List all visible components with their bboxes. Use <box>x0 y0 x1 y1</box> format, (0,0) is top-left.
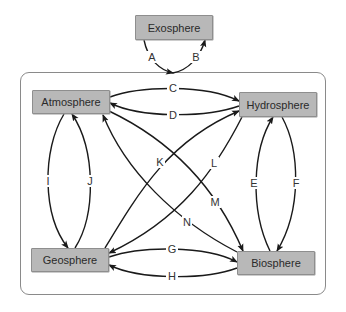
edge-label-b: B <box>192 51 199 63</box>
edge-label-e: E <box>250 177 257 189</box>
edge-label-j: J <box>87 175 93 187</box>
edge-label-l: L <box>211 157 217 169</box>
node-label: Atmosphere <box>41 96 100 108</box>
edge-label-g: G <box>168 243 177 255</box>
node-geosphere: Geosphere <box>31 248 109 272</box>
edge-label-h: H <box>168 270 176 282</box>
edge-k <box>105 111 239 248</box>
edge-label-a: A <box>148 51 156 63</box>
edge-l <box>109 117 242 253</box>
node-label: Exosphere <box>148 22 201 34</box>
edge-label-d: D <box>169 109 177 121</box>
edge-m <box>109 111 243 251</box>
edge-label-m: M <box>210 196 219 208</box>
edge-label-k: K <box>156 156 164 168</box>
node-label: Geosphere <box>43 254 97 266</box>
node-exosphere: Exosphere <box>135 15 213 40</box>
edge-label-f: F <box>293 177 300 189</box>
node-label: Biosphere <box>251 257 301 269</box>
edge-label-c: C <box>169 82 177 94</box>
edge-label-i: I <box>46 175 49 187</box>
node-hydrosphere: Hydrosphere <box>239 92 317 117</box>
edge-label-n: N <box>183 216 191 228</box>
node-label: Hydrosphere <box>247 99 310 111</box>
node-atmosphere: Atmosphere <box>32 90 110 114</box>
node-biosphere: Biosphere <box>237 251 315 275</box>
edge-n <box>103 115 237 252</box>
